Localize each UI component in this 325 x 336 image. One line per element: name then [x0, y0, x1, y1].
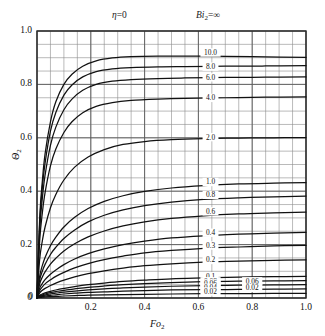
- y-tick-label: 1.0: [6, 25, 32, 35]
- x-tick-label: 0.2: [76, 302, 106, 312]
- curve-label: 4.0: [206, 93, 216, 102]
- curve-label: 0.8: [206, 190, 216, 199]
- y-tick-label: 0: [6, 292, 32, 302]
- x-axis-label: Fo2: [150, 318, 165, 331]
- x-axis-symbol: Fo: [150, 318, 161, 329]
- x-tick-label: 0.4: [130, 302, 160, 312]
- curve-label: 10.0: [204, 48, 217, 57]
- curve-label-group: 10.08.06.04.02.01.00.80.60.40.30.20.10.0…: [200, 48, 262, 296]
- chart-figure: η=0 Bi2=∞ Θ2 Fo2 10.08.06.04.02.01.00.80…: [0, 0, 325, 336]
- y-tick-label: 0.4: [6, 185, 32, 195]
- x-axis-subscript: 2: [161, 323, 165, 331]
- curve-label: 0.02: [246, 283, 259, 292]
- eta-value: =0: [117, 10, 127, 20]
- y-axis-symbol: Θ: [10, 153, 21, 160]
- curve-label: 0.2: [206, 255, 216, 264]
- y-tick-label: 0.2: [6, 239, 32, 249]
- curve-label: 8.0: [206, 62, 216, 71]
- curve-label: 0.6: [206, 207, 216, 216]
- x-tick-label: 0.6: [183, 302, 213, 312]
- annotation-biot: Bi2=∞: [196, 10, 220, 22]
- curve-label: 6.0: [206, 73, 216, 82]
- curve-label: 0.02: [204, 287, 217, 296]
- bi-value: =∞: [208, 10, 220, 20]
- y-tick-label: 0.8: [6, 78, 32, 88]
- plot-area: 10.08.06.04.02.01.00.80.60.40.30.20.10.0…: [0, 0, 325, 336]
- x-tick-label: 0.8: [237, 302, 267, 312]
- y-tick-label: 0.6: [6, 132, 32, 142]
- curve-label: 2.0: [206, 133, 216, 142]
- annotation-eta: η=0: [112, 10, 127, 20]
- x-tick-label: 1.0: [291, 302, 321, 312]
- curve-label: 0.4: [206, 228, 216, 237]
- curve-label: 0.3: [206, 241, 216, 250]
- y-axis-subscript: 2: [15, 149, 23, 153]
- curve-label: 1.0: [206, 177, 216, 186]
